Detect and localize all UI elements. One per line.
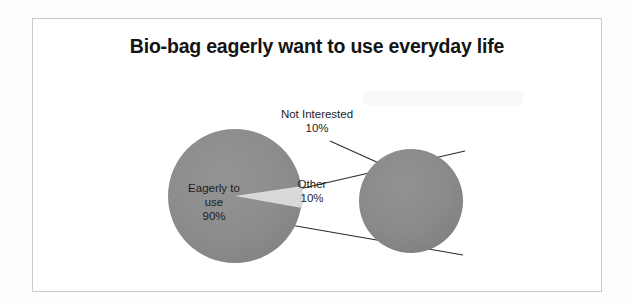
- not-interested-name: Not Interested: [257, 107, 377, 121]
- plot-area: Not Interested 10% Other 10% Eagerly to …: [33, 19, 603, 293]
- chart-frame: Bio-bag eagerly want to use everyday lif…: [32, 18, 602, 292]
- data-label-not-interested: Not Interested 10%: [257, 107, 377, 135]
- other-value: 10%: [281, 191, 343, 205]
- secondary-pie: [359, 149, 463, 253]
- data-label-eagerly-to-use: Eagerly to use 90%: [173, 181, 255, 223]
- not-interested-value: 10%: [257, 121, 377, 135]
- chart-page: Bio-bag eagerly want to use everyday lif…: [0, 0, 632, 306]
- eagerly-value: 90%: [173, 209, 255, 223]
- secondary-pie-disc: [359, 149, 463, 253]
- eagerly-name-line1: Eagerly to: [173, 181, 255, 195]
- other-name: Other: [281, 177, 343, 191]
- data-label-other: Other 10%: [281, 177, 343, 205]
- eagerly-name-line2: use: [173, 195, 255, 209]
- pie-of-pie-graphic: [33, 19, 603, 293]
